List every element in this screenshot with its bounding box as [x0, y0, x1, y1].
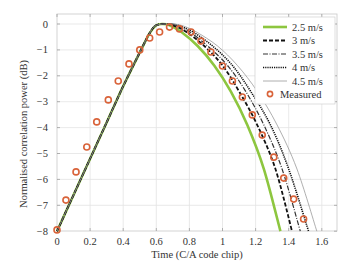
x-tick-label: 0.2	[84, 236, 97, 247]
measured-point	[126, 61, 132, 67]
y-tick-label: −6	[37, 174, 48, 185]
x-tick-label: 0.6	[150, 236, 163, 247]
x-tick-label: 0.4	[117, 236, 131, 247]
legend-label: 4 m/s	[292, 62, 315, 73]
y-tick-label: −4	[37, 122, 49, 133]
measured-point	[73, 169, 79, 175]
x-tick-label: 1.2	[249, 236, 262, 247]
y-tick-label: −7	[37, 200, 48, 211]
measured-point	[84, 144, 90, 150]
y-tick-label: −2	[37, 70, 48, 81]
y-tick-label: −8	[37, 226, 48, 237]
measured-point	[281, 175, 287, 181]
legend-label: 3.5 m/s	[292, 49, 323, 60]
y-axis-tick-labels: 0−1−2−3−4−5−6−7−8	[37, 19, 49, 237]
legend-label: Measured	[280, 89, 322, 100]
legend-label: 3 m/s	[292, 35, 315, 46]
correlation-power-chart: 00.20.40.60.811.21.41.6 0−1−2−3−4−5−6−7−…	[0, 0, 358, 278]
legend-label: 2.5 m/s	[292, 22, 323, 33]
x-tick-label: 1.6	[315, 236, 328, 247]
y-axis-title: Normalised correlation power (dB)	[18, 60, 30, 208]
legend: 2.5 m/s3 m/s3.5 m/s4 m/s4.5 m/sMeasured	[255, 17, 335, 104]
y-tick-label: −1	[37, 44, 48, 55]
x-tick-label: 0.8	[183, 236, 196, 247]
measured-point	[94, 119, 100, 125]
y-tick-label: −3	[37, 96, 48, 107]
measured-point	[63, 197, 69, 203]
x-axis-title: Time (C/A code chip)	[151, 249, 243, 261]
x-tick-label: 0	[54, 236, 59, 247]
y-tick-label: 0	[43, 19, 48, 30]
legend-label: 4.5 m/s	[292, 76, 323, 87]
x-tick-label: 1.4	[282, 236, 296, 247]
measured-point	[115, 78, 121, 84]
measured-point	[291, 196, 297, 202]
measured-point	[301, 216, 307, 222]
x-tick-label: 1	[220, 236, 225, 247]
y-tick-label: −5	[37, 148, 48, 159]
measured-point	[157, 29, 163, 35]
x-axis-tick-labels: 00.20.40.60.811.21.41.6	[54, 236, 328, 247]
